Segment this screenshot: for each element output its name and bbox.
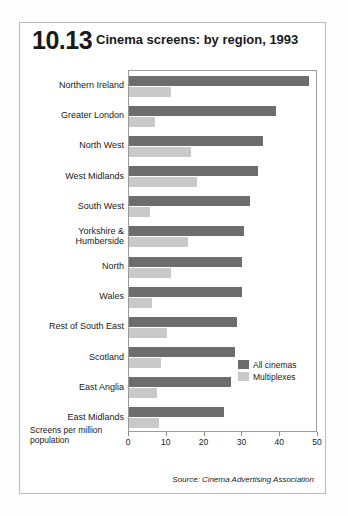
bar-all-cinemas — [129, 76, 309, 86]
category-label: Rest of South East — [49, 321, 124, 332]
bar-all-cinemas — [129, 106, 276, 116]
category-label: Scotland — [89, 351, 124, 362]
category-label: South West — [78, 201, 124, 212]
bar-all-cinemas — [129, 347, 235, 357]
axis-tick — [317, 432, 318, 436]
bar-all-cinemas — [129, 136, 263, 146]
bar-all-cinemas — [129, 226, 244, 236]
value-axis: 01020304050 — [128, 432, 317, 458]
legend-label-multiplexes: Multiplexes — [253, 372, 296, 382]
legend-item-multiplexes: Multiplexes — [238, 371, 296, 382]
chart-legend: All cinemas Multiplexes — [238, 359, 296, 383]
category-label: West Midlands — [65, 170, 124, 181]
axis-tick — [279, 432, 280, 436]
category-label: Yorkshire & Humberside — [75, 225, 124, 246]
page-background: 10.13 Cinema screens: by region, 1993 No… — [0, 0, 348, 516]
bar-multiplexes — [129, 207, 150, 217]
axis-tick — [166, 432, 167, 436]
chart-area: Northern IrelandGreater LondonNorth West… — [30, 70, 317, 456]
axis-tick-label: 10 — [161, 437, 170, 447]
bar-all-cinemas — [129, 257, 242, 267]
axis-tick — [204, 432, 205, 436]
source-note: Source: Cinema Advertising Association — [172, 475, 314, 484]
bar-all-cinemas — [129, 317, 237, 327]
category-label: Wales — [99, 291, 124, 302]
category-label: North West — [79, 140, 124, 151]
category-label: North — [102, 261, 124, 272]
bar-multiplexes — [129, 358, 161, 368]
bar-multiplexes — [129, 147, 191, 157]
bar-multiplexes — [129, 237, 188, 247]
bar-multiplexes — [129, 418, 159, 428]
bar-all-cinemas — [129, 407, 224, 417]
axis-caption: Screens per million population — [30, 426, 122, 445]
axis-tick — [241, 432, 242, 436]
category-label: East Anglia — [79, 382, 124, 393]
category-axis-labels: Northern IrelandGreater LondonNorth West… — [30, 70, 128, 432]
figure-title: Cinema screens: by region, 1993 — [96, 32, 298, 47]
legend-swatch-icon-multiplexes — [238, 372, 249, 381]
figure-header: 10.13 Cinema screens: by region, 1993 — [20, 23, 325, 59]
axis-tick-label: 40 — [274, 437, 283, 447]
legend-label-all-cinemas: All cinemas — [253, 360, 296, 370]
legend-item-all-cinemas: All cinemas — [238, 359, 296, 370]
axis-tick — [128, 432, 129, 436]
bar-all-cinemas — [129, 196, 250, 206]
axis-tick-label: 30 — [237, 437, 246, 447]
bar-multiplexes — [129, 87, 171, 97]
bar-multiplexes — [129, 388, 157, 398]
bar-all-cinemas — [129, 166, 258, 176]
axis-tick-label: 50 — [312, 437, 321, 447]
category-label: Greater London — [61, 110, 124, 121]
figure-number: 10.13 — [32, 26, 92, 55]
bar-multiplexes — [129, 117, 155, 127]
axis-tick-label: 0 — [126, 437, 131, 447]
bar-multiplexes — [129, 268, 171, 278]
axis-tick-label: 20 — [199, 437, 208, 447]
legend-swatch-icon-all-cinemas — [238, 360, 249, 369]
bar-multiplexes — [129, 298, 152, 308]
bar-multiplexes — [129, 328, 167, 338]
bar-all-cinemas — [129, 377, 231, 387]
category-label: East Midlands — [67, 412, 124, 423]
category-label: Northern Ireland — [59, 80, 124, 91]
figure-card: 10.13 Cinema screens: by region, 1993 No… — [19, 22, 326, 494]
bar-multiplexes — [129, 177, 197, 187]
bar-all-cinemas — [129, 287, 242, 297]
